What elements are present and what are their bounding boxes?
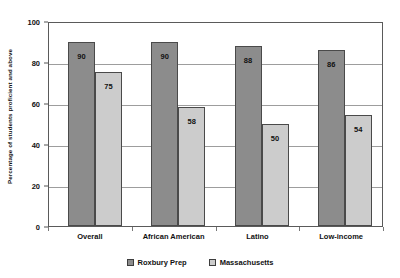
y-tick-mark-20 <box>44 186 48 187</box>
y-tick-mark-40 <box>44 145 48 146</box>
bar-value-label: 58 <box>179 117 204 126</box>
y-tick-mark-0 <box>44 227 48 228</box>
bar[interactable]: 58 <box>178 107 205 226</box>
y-tick-mark-80 <box>44 63 48 64</box>
x-axis-label: African American <box>132 232 216 248</box>
y-tick-label-0: 0 <box>36 223 40 232</box>
y-tick-label-40: 40 <box>32 141 40 150</box>
y-tick-label-60: 60 <box>32 100 40 109</box>
bar-value-label: 86 <box>319 60 344 69</box>
x-axis-label: Overall <box>48 232 132 248</box>
y-tick-label-80: 80 <box>32 59 40 68</box>
legend-swatch-icon <box>209 259 216 266</box>
y-tick-label-20: 20 <box>32 182 40 191</box>
x-tick-mark <box>383 227 384 231</box>
x-tick-mark <box>48 227 49 231</box>
x-tick-mark <box>132 227 133 231</box>
bar-chart: Percentage of students proficient and ab… <box>0 0 400 278</box>
bar-value-label: 90 <box>152 52 177 61</box>
y-tick-mark-60 <box>44 104 48 105</box>
x-axis-tick-marks <box>48 227 383 231</box>
x-tick-mark <box>299 227 300 231</box>
legend-label: Roxbury Prep <box>138 258 187 267</box>
legend-item[interactable]: Massachusetts <box>209 258 274 267</box>
bar[interactable]: 90 <box>68 42 95 227</box>
y-axis-title: Percentage of students proficient and ab… <box>0 0 18 232</box>
bar[interactable]: 90 <box>151 42 178 227</box>
bar-group: 8654 <box>299 23 382 226</box>
x-axis-label: Latino <box>216 232 300 248</box>
x-axis-labels: OverallAfrican AmericanLatinoLow-income <box>48 232 383 248</box>
bar[interactable]: 86 <box>318 50 345 226</box>
chart-legend: Roxbury PrepMassachusetts <box>0 255 400 269</box>
bar-group: 9058 <box>132 23 215 226</box>
bar-value-label: 75 <box>96 82 121 91</box>
bar[interactable]: 54 <box>345 115 372 226</box>
y-tick-label-100: 100 <box>27 18 40 27</box>
legend-item[interactable]: Roxbury Prep <box>127 258 187 267</box>
bar-value-label: 90 <box>69 52 94 61</box>
bar[interactable]: 88 <box>235 46 262 226</box>
legend-label: Massachusetts <box>220 258 274 267</box>
bars-layer: 9075905888508654 <box>49 23 382 226</box>
y-axis-title-text: Percentage of students proficient and ab… <box>6 49 13 184</box>
bar[interactable]: 75 <box>95 72 122 226</box>
bar-group: 8850 <box>216 23 299 226</box>
x-tick-mark <box>216 227 217 231</box>
bar-value-label: 50 <box>263 134 288 143</box>
plot-area: 9075905888508654 <box>48 22 383 227</box>
bar-group: 9075 <box>49 23 132 226</box>
y-tick-mark-100 <box>44 22 48 23</box>
legend-swatch-icon <box>127 259 134 266</box>
bar-value-label: 88 <box>236 56 261 65</box>
bar[interactable]: 50 <box>262 124 289 227</box>
bar-value-label: 54 <box>346 125 371 134</box>
y-axis-tick-labels: 020406080100 <box>18 22 44 227</box>
x-axis-label: Low-income <box>299 232 383 248</box>
